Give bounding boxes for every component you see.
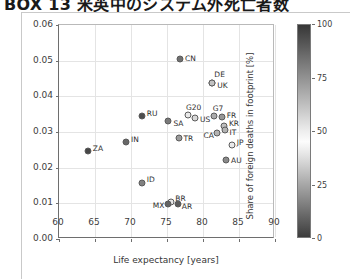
colorbar-gradient: [297, 24, 311, 238]
gridline-vertical: [131, 25, 132, 237]
y-tick: [56, 25, 59, 26]
data-point: [84, 147, 91, 154]
x-tick: [95, 239, 96, 242]
x-tick: [239, 239, 240, 242]
gridline-horizontal: [59, 132, 273, 133]
y-tick: [56, 168, 59, 169]
x-tick-label: 60: [52, 217, 63, 227]
x-tick: [59, 239, 60, 242]
x-tick-label: 90: [268, 217, 279, 227]
colorbar-tick-label: 75: [317, 73, 327, 82]
data-point: [214, 129, 221, 136]
data-point-label: ZA: [93, 143, 103, 152]
gridline-vertical: [239, 25, 240, 237]
chart-figure: BOX 13 米英中のシステム外死亡者数 CNDEUKRUG20USG7FRSA…: [0, 0, 350, 279]
data-point: [138, 112, 145, 119]
x-axis-title: Life expectancy [years]: [113, 255, 219, 265]
data-point: [164, 201, 171, 208]
data-point-label: AR: [182, 202, 192, 211]
data-point-label: US: [200, 114, 210, 123]
y-tick-label: 0.05: [10, 55, 53, 65]
colorbar-tick-label: 0: [317, 234, 322, 243]
data-point-label: TR: [184, 134, 194, 143]
x-tick-label: 85: [232, 217, 243, 227]
data-point: [221, 127, 228, 134]
data-point: [223, 156, 230, 163]
data-point-label: MX: [153, 201, 165, 210]
x-tick: [131, 239, 132, 242]
x-tick-label: 65: [88, 217, 99, 227]
colorbar-tick: [312, 24, 315, 25]
y-tick-label: 0.04: [10, 90, 53, 100]
data-point: [218, 113, 225, 120]
data-point-label: IN: [131, 134, 139, 143]
y-tick-label: 0.00: [10, 233, 53, 243]
y-tick: [56, 239, 59, 240]
data-point: [138, 180, 145, 187]
y-tick-label: 0.02: [10, 162, 53, 172]
gridline-vertical: [95, 25, 96, 237]
gridline-horizontal: [59, 96, 273, 97]
data-point: [210, 112, 217, 119]
y-tick-label: 0.06: [10, 19, 53, 29]
y-tick: [56, 203, 59, 204]
gridline-horizontal: [59, 168, 273, 169]
data-point-label: RU: [147, 108, 158, 117]
data-point: [228, 142, 235, 149]
colorbar-tick: [312, 78, 315, 79]
data-point: [174, 201, 181, 208]
colorbar-tick: [312, 238, 315, 239]
colorbar-tick-label: 100: [317, 20, 332, 29]
plot-area: CNDEUKRUG20USG7FRSAKRITCATRINZAJPAUIDBRM…: [58, 24, 274, 238]
colorbar-tick-label: 25: [317, 180, 327, 189]
data-point-label: JP: [237, 138, 244, 147]
data-point-label: ID: [147, 175, 155, 184]
data-point-label: SA: [173, 119, 183, 128]
data-point: [122, 138, 129, 145]
colorbar-title: Share of foreign deaths in footprint [%]: [245, 29, 255, 243]
x-tick-label: 70: [124, 217, 135, 227]
x-tick: [167, 239, 168, 242]
y-tick: [56, 61, 59, 62]
data-point-label: CA: [203, 130, 213, 139]
y-tick: [56, 96, 59, 97]
y-tick-label: 0.03: [10, 126, 53, 136]
x-tick: [275, 239, 276, 242]
data-point: [209, 79, 216, 86]
data-point-label: DE: [214, 69, 225, 78]
y-tick: [56, 132, 59, 133]
data-point: [175, 135, 182, 142]
x-tick-label: 80: [196, 217, 207, 227]
gridline-vertical: [275, 25, 276, 237]
data-point-label: KR: [229, 118, 239, 127]
data-point-label: UK: [217, 80, 227, 89]
data-point: [184, 112, 191, 119]
data-point-label: G20: [186, 103, 201, 112]
data-point: [176, 55, 183, 62]
gridline-horizontal: [59, 61, 273, 62]
data-point-label: IT: [230, 128, 237, 137]
colorbar-tick-label: 50: [317, 127, 327, 136]
data-point: [165, 118, 172, 125]
colorbar-tick: [312, 131, 315, 132]
header-divider: [21, 12, 350, 13]
x-tick-label: 75: [160, 217, 171, 227]
data-point: [192, 114, 199, 121]
colorbar-tick: [312, 185, 315, 186]
data-point-label: CN: [185, 53, 196, 62]
y-tick-label: 0.01: [10, 197, 53, 207]
x-tick: [203, 239, 204, 242]
data-point-label: G7: [213, 103, 224, 112]
data-point-label: AU: [231, 155, 242, 164]
